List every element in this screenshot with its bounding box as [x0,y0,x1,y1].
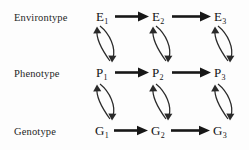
node-P3: P3 [214,66,225,79]
node-E2: E2 [152,10,164,23]
edge-G1-G2 [114,126,148,135]
row-label-environtype: Environtype [14,12,68,23]
node-G3-base: G [213,123,222,138]
curved-edge-pair-E2-P2 [149,26,172,63]
row-label-phenotype: Phenotype [14,68,60,79]
node-G1-subscript: 1 [105,131,109,140]
node-G1-base: G [95,123,104,138]
node-G3-subscript: 3 [223,131,227,140]
curved-edge-pair-E1-P1 [93,26,116,63]
diagram-canvas: Environtype Phenotype Genotype E1 E2 E3 … [0,0,249,150]
node-P3-base: P [214,65,221,80]
node-E3: E3 [214,10,226,23]
edge-P2-P3 [172,68,211,78]
edge-E1-E2 [115,12,149,22]
node-G2: G2 [151,124,164,137]
node-G2-base: G [151,123,160,138]
curved-edge-pair-P3-G3 [211,84,234,121]
node-P1-base: P [96,65,103,80]
node-P3-subscript: 3 [222,73,226,82]
edge-P1-P2 [115,68,149,78]
node-E1-base: E [96,9,104,24]
edge-G2-G3 [171,126,210,135]
node-P1-subscript: 1 [104,73,108,82]
node-E3-base: E [214,9,222,24]
node-G2-subscript: 2 [161,131,165,140]
node-E1-subscript: 1 [104,17,108,26]
row-label-genotype: Genotype [14,126,56,137]
edge-E2-E3 [172,12,211,22]
node-P2-base: P [152,65,159,80]
node-G3: G3 [213,124,226,137]
node-P2: P2 [152,66,163,79]
node-P2-subscript: 2 [160,73,164,82]
node-E2-subscript: 2 [160,17,164,26]
curved-edge-pair-P1-G1 [93,84,116,121]
node-E2-base: E [152,9,160,24]
node-G1: G1 [95,124,108,137]
node-E3-subscript: 3 [222,17,226,26]
node-E1: E1 [96,10,108,23]
curved-edge-pair-E3-P3 [211,26,234,63]
curved-edge-pair-P2-G2 [149,84,172,121]
node-P1: P1 [96,66,107,79]
